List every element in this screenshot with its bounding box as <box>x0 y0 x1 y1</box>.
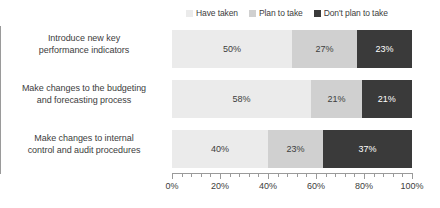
bar-value-label: 58% <box>233 94 251 104</box>
x-axis-labels: 0%20%40%60%80%100% <box>0 181 440 195</box>
y-axis-line <box>0 26 1 174</box>
x-tick-minor <box>249 174 250 177</box>
x-axis-tick-label: 0% <box>152 181 192 191</box>
x-tick-minor <box>345 174 346 177</box>
legend-item-plan-to-take[interactable]: Plan to take <box>249 9 303 18</box>
x-axis-tick-label: 20% <box>200 181 240 191</box>
bar-row: 50% 27% 23% <box>172 30 412 68</box>
x-axis-tick-label: 40% <box>248 181 288 191</box>
category-label-0-line-1: performance indicators <box>0 45 168 57</box>
x-tick-minor <box>182 174 183 177</box>
category-label-2-line-1: control and audit procedures <box>0 145 168 157</box>
legend-swatch-have-taken <box>186 10 193 17</box>
x-tick-minor <box>201 174 202 177</box>
category-label-1-line-0: Make changes to the budgeting <box>0 83 168 95</box>
x-tick-major <box>172 174 173 179</box>
bar-segment-have-taken[interactable]: 50% <box>172 30 292 68</box>
category-label-1-line-1: and forecasting process <box>0 95 168 107</box>
legend-item-have-taken[interactable]: Have taken <box>186 9 238 18</box>
x-tick-minor <box>383 174 384 177</box>
legend-label-dont-plan-to-take: Don't plan to take <box>324 9 388 18</box>
bar-segment-have-taken[interactable]: 58% <box>172 80 311 118</box>
bar-value-label: 27% <box>315 44 333 54</box>
legend-label-have-taken: Have taken <box>196 9 238 18</box>
bar-value-label: 21% <box>378 94 396 104</box>
x-axis-tick-label: 80% <box>344 181 384 191</box>
legend-item-dont-plan-to-take[interactable]: Don't plan to take <box>314 9 388 18</box>
x-tick-minor <box>258 174 259 177</box>
category-label-2-line-0: Make changes to internal <box>0 133 168 145</box>
x-tick-minor <box>278 174 279 177</box>
legend-swatch-dont-plan-to-take <box>314 10 321 17</box>
bar-value-label: 23% <box>287 144 305 154</box>
x-tick-minor <box>402 174 403 177</box>
bar-value-label: 37% <box>359 144 377 154</box>
stacked-bar-chart: Have taken Plan to take Don't plan to ta… <box>0 0 440 208</box>
category-label-1: Make changes to the budgeting and foreca… <box>0 83 168 106</box>
category-label-0: Introduce new key performance indicators <box>0 33 168 56</box>
x-tick-minor <box>393 174 394 177</box>
x-tick-major <box>220 174 221 179</box>
bar-segment-plan-to-take[interactable]: 23% <box>268 130 323 168</box>
x-tick-minor <box>326 174 327 177</box>
x-axis-ticks <box>172 174 413 179</box>
x-tick-minor <box>230 174 231 177</box>
x-axis-tick-label: 100% <box>392 181 432 191</box>
x-tick-minor <box>210 174 211 177</box>
chart-legend: Have taken Plan to take Don't plan to ta… <box>186 6 436 20</box>
bar-segment-dont-plan-to-take[interactable]: 37% <box>323 130 412 168</box>
legend-label-plan-to-take: Plan to take <box>259 9 303 18</box>
x-tick-minor <box>191 174 192 177</box>
x-tick-minor <box>374 174 375 177</box>
x-tick-minor <box>354 174 355 177</box>
x-axis-tick-label: 60% <box>296 181 336 191</box>
bar-value-label: 23% <box>375 44 393 54</box>
category-label-0-line-0: Introduce new key <box>0 33 168 45</box>
bar-value-label: 21% <box>327 94 345 104</box>
x-tick-major <box>268 174 269 179</box>
x-tick-minor <box>287 174 288 177</box>
bar-segment-dont-plan-to-take[interactable]: 23% <box>357 30 412 68</box>
x-tick-minor <box>335 174 336 177</box>
legend-swatch-plan-to-take <box>249 10 256 17</box>
bar-segment-plan-to-take[interactable]: 21% <box>311 80 361 118</box>
category-label-2: Make changes to internal control and aud… <box>0 133 168 156</box>
bar-value-label: 50% <box>223 44 241 54</box>
plot-area: 50% 27% 23% 58% 21% 21% 40% 23% 37% <box>172 26 412 174</box>
x-tick-minor <box>306 174 307 177</box>
bar-row: 58% 21% 21% <box>172 80 412 118</box>
bar-segment-plan-to-take[interactable]: 27% <box>292 30 357 68</box>
x-tick-major <box>316 174 317 179</box>
bar-value-label: 40% <box>211 144 229 154</box>
bar-segment-dont-plan-to-take[interactable]: 21% <box>362 80 412 118</box>
bar-segment-have-taken[interactable]: 40% <box>172 130 268 168</box>
x-tick-major <box>412 174 413 179</box>
x-tick-minor <box>297 174 298 177</box>
x-tick-minor <box>239 174 240 177</box>
bar-row: 40% 23% 37% <box>172 130 412 168</box>
x-tick-major <box>364 174 365 179</box>
